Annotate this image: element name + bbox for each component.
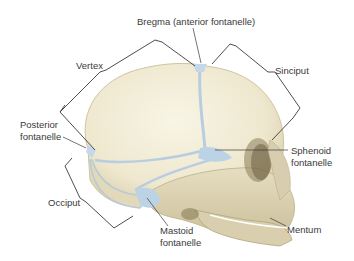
ear-canal xyxy=(181,208,199,220)
label-sinciput: Sinciput xyxy=(275,65,309,77)
label-mastoid-line1: Mastoid xyxy=(160,225,193,237)
posterior-leader xyxy=(63,137,86,148)
label-vertex: Vertex xyxy=(76,60,103,72)
label-sphenoid-line1: Sphenoid xyxy=(291,145,331,157)
label-posterior-line2: fontanelle xyxy=(20,131,61,143)
label-sphenoid-line2: fontanelle xyxy=(291,157,332,169)
label-bregma: Bregma (anterior fontanelle) xyxy=(137,16,255,28)
label-posterior-line1: Posterior xyxy=(20,119,58,131)
label-mastoid-line2: fontanelle xyxy=(160,237,201,249)
label-mentum: Mentum xyxy=(287,224,321,236)
skull-diagram: Bregma (anterior fontanelle) Vertex Sinc… xyxy=(0,0,354,261)
bregma-leader xyxy=(193,28,201,63)
label-occiput: Occiput xyxy=(48,197,80,209)
